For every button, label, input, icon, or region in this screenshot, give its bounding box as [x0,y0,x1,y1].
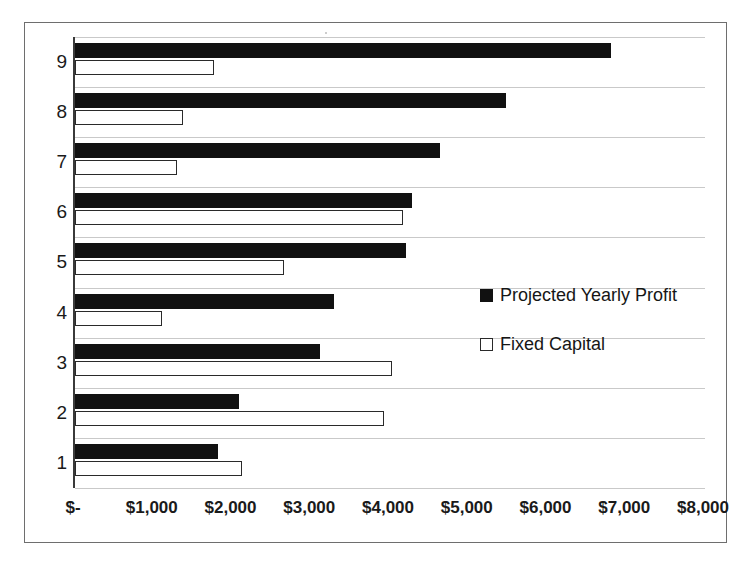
legend-item-projected-yearly-profit[interactable]: Projected Yearly Profit [480,285,730,306]
category-band-line [75,438,705,439]
x-axis-tick-2000: $2,000 [205,498,257,518]
y-axis-label-1: 1 [33,453,67,472]
category-band-line [75,87,705,88]
category-band-line [75,388,705,389]
bar-group-9: 9 [75,37,705,87]
y-axis-label-4: 4 [33,303,67,322]
bar-fixed-capital-5[interactable] [75,260,284,275]
filled-square-icon [480,289,493,302]
y-axis-label-5: 5 [33,252,67,271]
bar-fixed-capital-1[interactable] [75,461,242,476]
x-axis-tick-4000: $4,000 [362,498,414,518]
bar-projected-yearly-profit-6[interactable] [75,193,412,208]
bar-fixed-capital-8[interactable] [75,110,183,125]
category-band-line [75,237,705,238]
y-axis-label-3: 3 [33,353,67,372]
x-axis-tick-5000: $5,000 [441,498,493,518]
y-axis-label-6: 6 [33,202,67,221]
bar-group-5: 5 [75,237,705,287]
bar-projected-yearly-profit-4[interactable] [75,294,334,309]
hollow-square-icon [480,338,493,351]
y-axis-label-8: 8 [33,102,67,121]
bar-group-8: 8 [75,87,705,137]
scan-speck [325,32,327,34]
bar-group-6: 6 [75,187,705,237]
x-axis-tick-0: $- [65,498,80,518]
legend-label: Projected Yearly Profit [500,285,677,306]
y-axis-label-2: 2 [33,403,67,422]
x-axis-tick-1000: $1,000 [126,498,178,518]
bar-fixed-capital-7[interactable] [75,160,177,175]
chart-frame: 987654321 $-$1,000$2,000$3,000$4,000$5,0… [24,22,727,543]
legend-label: Fixed Capital [500,334,605,355]
bar-fixed-capital-3[interactable] [75,361,392,376]
category-band-line [75,187,705,188]
bar-fixed-capital-6[interactable] [75,210,403,225]
bar-projected-yearly-profit-7[interactable] [75,143,440,158]
bar-fixed-capital-4[interactable] [75,311,162,326]
x-axis-tick-7000: $7,000 [598,498,650,518]
legend-item-fixed-capital[interactable]: Fixed Capital [480,334,730,355]
chart-legend: Projected Yearly Profit Fixed Capital [480,285,730,383]
category-band-line [75,137,705,138]
axis-baseline [75,488,705,489]
bar-projected-yearly-profit-1[interactable] [75,444,218,459]
bar-group-1: 1 [75,438,705,488]
x-axis-tick-3000: $3,000 [283,498,335,518]
bar-projected-yearly-profit-8[interactable] [75,93,506,108]
bar-projected-yearly-profit-5[interactable] [75,243,406,258]
bar-group-7: 7 [75,137,705,187]
x-axis-tick-8000: $8,000 [677,498,729,518]
bar-group-2: 2 [75,388,705,438]
bar-fixed-capital-2[interactable] [75,411,384,426]
bar-projected-yearly-profit-3[interactable] [75,344,320,359]
category-band-line [75,37,705,38]
bar-fixed-capital-9[interactable] [75,60,214,75]
bar-projected-yearly-profit-9[interactable] [75,43,611,58]
x-axis-tick-labels: $-$1,000$2,000$3,000$4,000$5,000$6,000$7… [25,498,728,528]
y-axis-label-9: 9 [33,52,67,71]
plot-area: 987654321 [73,37,705,488]
y-axis-label-7: 7 [33,152,67,171]
bar-projected-yearly-profit-2[interactable] [75,394,239,409]
x-axis-tick-6000: $6,000 [520,498,572,518]
